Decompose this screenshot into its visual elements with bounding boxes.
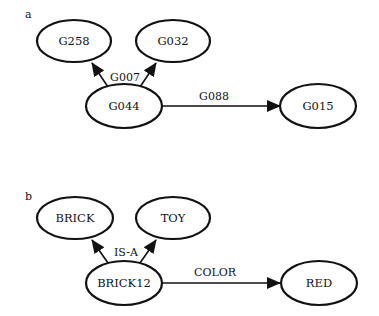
edge-g044-g032 <box>140 63 156 87</box>
edge-label-color: COLOR <box>194 266 237 279</box>
svg-text:RED: RED <box>306 276 332 290</box>
svg-text:G032: G032 <box>157 34 188 48</box>
node-brick: BRICK <box>37 197 113 239</box>
svg-text:BRICK12: BRICK12 <box>97 276 151 290</box>
node-g044: G044 <box>86 84 162 128</box>
svg-text:G015: G015 <box>302 99 333 113</box>
edge-label-g088: G088 <box>199 90 229 103</box>
node-brick12: BRICK12 <box>86 261 162 305</box>
diagram-b: b IS-A COLOR BRICK TOY BRICK12 RED <box>25 190 357 305</box>
node-red: RED <box>281 261 357 305</box>
edge-brick12-toy <box>140 240 156 263</box>
svg-text:G044: G044 <box>108 99 139 113</box>
edge-label-is-a: IS-A <box>114 246 139 259</box>
edge-label-g007: G007 <box>110 71 140 84</box>
node-toy: TOY <box>136 197 210 239</box>
svg-text:TOY: TOY <box>161 211 186 225</box>
diagram-a: a G007 G088 G258 G032 G044 G015 <box>25 8 356 128</box>
edge-g044-g258 <box>92 63 108 87</box>
panel-label-b: b <box>25 190 32 203</box>
svg-text:BRICK: BRICK <box>55 211 94 225</box>
node-g032: G032 <box>136 20 210 62</box>
node-g015: G015 <box>280 84 356 128</box>
svg-text:G258: G258 <box>58 34 89 48</box>
panel-label-a: a <box>25 8 32 21</box>
semantic-network-figure: a G007 G088 G258 G032 G044 G015 <box>0 0 379 316</box>
node-g258: G258 <box>37 20 111 62</box>
edge-brick12-brick <box>92 240 108 263</box>
